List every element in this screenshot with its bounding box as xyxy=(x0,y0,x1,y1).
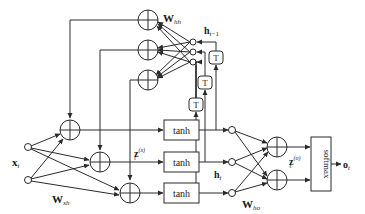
w-ho-connections xyxy=(235,131,268,192)
w-hh-connections xyxy=(156,22,190,78)
recurrent-sum-node-2 xyxy=(138,40,158,60)
output-sum-node-2 xyxy=(267,170,287,190)
tanh-label-2: tanh xyxy=(173,157,190,168)
recurrent-sum-nodes xyxy=(138,10,158,90)
input-label: xt xyxy=(12,156,21,170)
w-hh-label: Whh xyxy=(163,12,182,26)
rnn-diagram: T T T Whh ht−1 xt Wxh xyxy=(0,0,365,214)
output-sum-nodes xyxy=(267,137,287,190)
hidden-sum-node-3 xyxy=(120,183,140,203)
tanh-to-hidden-lines xyxy=(199,130,228,193)
h-t-label: ht xyxy=(214,169,223,182)
output-label: ot xyxy=(343,159,351,172)
tanh-label-3: tanh xyxy=(173,188,190,199)
hidden-sum-node-2 xyxy=(90,152,110,172)
h-prev-label: ht−1 xyxy=(204,25,219,38)
recurrent-sum-node-1 xyxy=(138,10,158,30)
softmax-label: softmax xyxy=(322,150,332,179)
previous-hidden-units xyxy=(190,39,196,65)
z-o-label: z(o)t xyxy=(289,155,300,169)
output-sum-node-1 xyxy=(267,137,287,157)
hidden-units xyxy=(229,127,236,197)
hidden-sum-node-1 xyxy=(60,120,80,140)
w-ho-label: Who xyxy=(242,198,261,212)
delay-label-2: T xyxy=(202,78,208,88)
recurrent-sum-node-3 xyxy=(138,70,158,90)
delay-label-3: T xyxy=(193,100,199,110)
input-units xyxy=(25,144,32,184)
delay-label-1: T xyxy=(213,53,219,63)
z-x-label: z(x)t xyxy=(134,147,145,161)
tanh-label-1: tanh xyxy=(173,125,190,136)
w-xh-label: Wxh xyxy=(52,193,70,207)
